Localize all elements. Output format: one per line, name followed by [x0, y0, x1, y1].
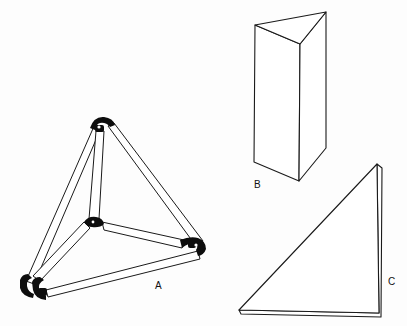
prism-left-face	[254, 25, 300, 181]
label-c: C	[388, 277, 395, 287]
figure-canvas: A B C	[0, 0, 407, 326]
tetrahedron-frame	[20, 117, 206, 300]
bar-bottom-left-to-right	[46, 251, 200, 297]
label-b: B	[254, 180, 261, 190]
bar-center-to-right	[102, 222, 184, 248]
figure-svg	[0, 0, 407, 326]
triangular-prism	[254, 12, 326, 181]
label-a: A	[155, 281, 162, 291]
